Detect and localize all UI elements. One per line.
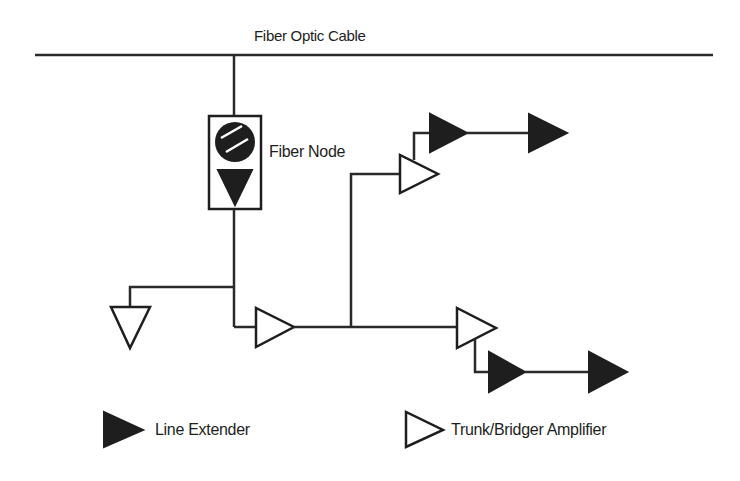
- line-extender-upper-1: [430, 114, 467, 152]
- fiber-node: [209, 116, 261, 209]
- fiber-optic-cable-label: Fiber Optic Cable: [254, 27, 366, 44]
- lower-branch-line: [475, 338, 489, 372]
- legend-line-extender-label: Line Extender: [155, 421, 250, 439]
- optical-receiver-icon: [215, 122, 255, 162]
- trunk-bridger-amplifier-left: [111, 307, 150, 348]
- trunk-bridger-amplifier-upper: [400, 155, 438, 193]
- network-diagram: [0, 0, 740, 481]
- fiber-node-label: Fiber Node: [269, 143, 345, 161]
- line-extender-upper-2: [529, 114, 567, 152]
- legend-trunk-bridger-icon: [406, 412, 443, 447]
- line-extender-lower-1: [489, 352, 525, 392]
- upper-branch-line: [414, 133, 430, 160]
- upper-riser-line: [351, 174, 400, 327]
- line-extender-lower-2: [589, 352, 627, 392]
- trunk-bridger-amplifier-main: [256, 308, 294, 347]
- trunk-bridger-amplifier-lower: [457, 308, 496, 348]
- legend-trunk-bridger-label: Trunk/Bridger Amplifier: [451, 421, 606, 439]
- left-branch-line: [130, 287, 234, 307]
- legend-line-extender-icon: [104, 412, 143, 447]
